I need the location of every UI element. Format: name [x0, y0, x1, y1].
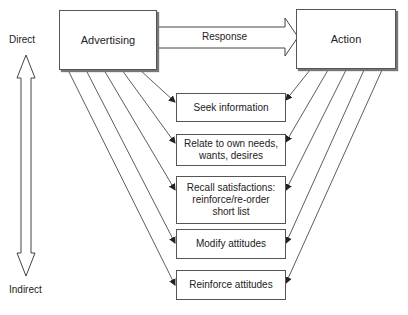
response-label: Response: [202, 31, 247, 42]
step-recall-satisfactions: Recall satisfactions: reinforce/re-order…: [176, 176, 286, 224]
advertising-node: Advertising: [59, 10, 157, 70]
action-label: Action: [331, 33, 362, 45]
step-label: Recall satisfactions: reinforce/re-order…: [187, 182, 275, 218]
advertising-to-steps-connectors: [68, 70, 175, 285]
step-relate-to-needs: Relate to own needs, wants, desires: [176, 134, 286, 166]
indirect-label: Indirect: [9, 284, 42, 295]
action-node: Action: [296, 9, 396, 69]
step-label: Seek information: [193, 102, 268, 114]
direct-indirect-scale-arrow: [17, 55, 35, 276]
step-reinforce-attitudes: Reinforce attitudes: [176, 270, 286, 300]
direct-label: Direct: [9, 34, 35, 45]
advertising-label: Advertising: [81, 34, 135, 46]
step-modify-attitudes: Modify attitudes: [176, 229, 286, 259]
step-label: Reinforce attitudes: [189, 279, 272, 291]
step-label: Modify attitudes: [196, 238, 266, 250]
step-seek-information: Seek information: [176, 93, 286, 122]
action-to-steps-connectors: [286, 70, 382, 283]
step-label: Relate to own needs, wants, desires: [184, 138, 278, 162]
